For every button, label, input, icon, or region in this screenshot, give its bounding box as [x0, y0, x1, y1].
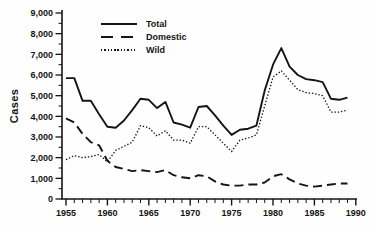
y-tick-label: 9,000	[30, 8, 53, 18]
series-line-domestic	[66, 118, 348, 186]
series-line-wild	[66, 71, 348, 162]
x-tick-label: 1990	[346, 208, 366, 218]
y-tick-label: 7,000	[30, 50, 53, 60]
x-tick-label: 1985	[304, 208, 324, 218]
legend-label-total: Total	[146, 19, 167, 29]
legend-item-total: Total	[101, 19, 187, 29]
y-tick-label: 5,000	[30, 91, 53, 101]
legend-item-wild: Wild	[101, 45, 187, 55]
dotted-line-icon	[101, 49, 137, 51]
y-tick-label: 6,000	[30, 70, 53, 80]
solid-line-icon	[101, 23, 137, 25]
legend-item-domestic: Domestic	[101, 32, 187, 42]
y-tick-label: 4,000	[30, 112, 53, 122]
y-tick-label: 3,000	[30, 132, 53, 142]
x-tick-label: 1975	[222, 208, 242, 218]
rabies-cases-line-chart: Cases Total Domestic Wild 01,0002,0003,0…	[0, 0, 376, 229]
y-tick-label: 1,000	[30, 174, 53, 184]
legend-label-domestic: Domestic	[146, 32, 187, 42]
legend-label-wild: Wild	[146, 45, 165, 55]
legend: Total Domestic Wild	[101, 19, 187, 55]
x-tick-label: 1955	[56, 208, 76, 218]
x-tick-label: 1960	[97, 208, 117, 218]
dashed-line-icon	[101, 36, 137, 38]
series-line-total	[66, 48, 348, 135]
y-tick-label: 8,000	[30, 29, 53, 39]
plot-area: 01,0002,0003,0004,0005,0006,0007,0008,00…	[0, 0, 376, 229]
y-tick-label: 2,000	[30, 153, 53, 163]
x-tick-label: 1980	[263, 208, 283, 218]
y-tick-label: 0	[48, 194, 53, 204]
x-tick-label: 1970	[180, 208, 200, 218]
x-tick-label: 1965	[139, 208, 159, 218]
y-axis-label: Cases	[8, 89, 20, 123]
